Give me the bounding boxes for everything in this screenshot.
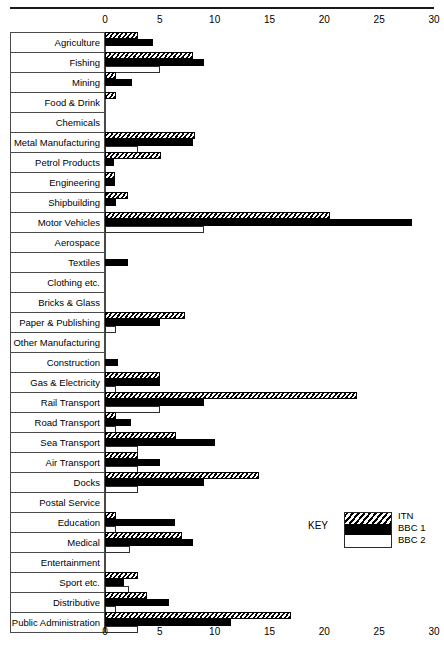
- category-label: Motor Vehicles: [11, 213, 104, 233]
- chart-row: [105, 192, 434, 212]
- bar-bbc1: [105, 579, 124, 586]
- bar-itn: [105, 152, 161, 159]
- chart-row: [105, 592, 434, 612]
- bar-itn: [105, 32, 138, 39]
- chart-row: [105, 232, 434, 252]
- x-tick-label: 30: [428, 14, 439, 25]
- bar-bbc1: [105, 139, 193, 146]
- category-label: Bricks & Glass: [11, 293, 104, 313]
- x-tick-label: 15: [264, 626, 275, 637]
- bar-itn: [105, 432, 176, 439]
- bar-itn: [105, 512, 116, 519]
- category-label: Construction: [11, 353, 104, 373]
- chart-row: [105, 352, 434, 372]
- chart-row: [105, 312, 434, 332]
- bar-bbc1: [105, 39, 153, 46]
- bar-itn: [105, 472, 259, 479]
- legend-key-label: KEY: [308, 520, 328, 531]
- chart-row: [105, 392, 434, 412]
- chart-row: [105, 152, 434, 172]
- category-label: Sport etc.: [11, 573, 104, 593]
- category-label-column: AgricultureFishingMiningFood & DrinkChem…: [10, 32, 105, 633]
- category-label: Entertainment: [11, 553, 104, 573]
- chart-row: [105, 552, 434, 572]
- legend: KEY ITN BBC 1 BBC 2: [308, 508, 440, 550]
- chart-row: [105, 212, 434, 232]
- category-label: Food & Drink: [11, 93, 104, 113]
- bar-itn: [105, 192, 128, 199]
- chart-row: [105, 112, 434, 132]
- bar-bbc1: [105, 219, 412, 226]
- bar-itn: [105, 412, 116, 419]
- chart-row: [105, 172, 434, 192]
- header-rule: [10, 7, 434, 9]
- bar-bbc1: [105, 59, 204, 66]
- legend-label-list: ITN BBC 1 BBC 2: [398, 510, 425, 546]
- chart-page: 051015202530 AgricultureFishingMiningFoo…: [0, 0, 444, 645]
- x-tick-label: 30: [428, 626, 439, 637]
- x-tick-label: 5: [157, 626, 163, 637]
- bar-bbc1: [105, 79, 132, 86]
- category-label: Distributive: [11, 593, 104, 613]
- x-tick-label: 25: [374, 14, 385, 25]
- bar-itn: [105, 372, 160, 379]
- bar-bbc1: [105, 359, 118, 366]
- bar-bbc1: [105, 199, 116, 206]
- chart-row: [105, 472, 434, 492]
- bar-bbc1: [105, 459, 160, 466]
- bar-bbc1: [105, 479, 204, 486]
- bar-bbc1: [105, 599, 169, 606]
- legend-item-bbc2: BBC 2: [398, 534, 425, 546]
- category-label: Rail Transport: [11, 393, 104, 413]
- clipped-figure-title: [110, 0, 330, 3]
- bar-bbc1: [105, 319, 160, 326]
- bar-bbc1: [105, 419, 131, 426]
- category-label: Metal Manufacturing: [11, 133, 104, 153]
- category-label: Shipbuilding: [11, 193, 104, 213]
- x-tick-label: 15: [264, 14, 275, 25]
- chart-row: [105, 32, 434, 52]
- bar-itn: [105, 572, 138, 579]
- bar-itn: [105, 132, 195, 139]
- x-tick-label: 20: [319, 626, 330, 637]
- hatched-swatch: [345, 513, 391, 524]
- bar-itn: [105, 92, 116, 99]
- category-label: Road Transport: [11, 413, 104, 433]
- category-label: Textiles: [11, 253, 104, 273]
- bar-bbc1: [105, 159, 114, 166]
- chart-row: [105, 92, 434, 112]
- category-label: Engineering: [11, 173, 104, 193]
- bar-itn: [105, 52, 193, 59]
- x-tick-label: 0: [102, 14, 108, 25]
- x-tick-label: 5: [157, 14, 163, 25]
- x-tick-label: 0: [102, 626, 108, 637]
- bar-bbc1: [105, 539, 193, 546]
- bar-bbc1: [105, 519, 175, 526]
- bar-itn: [105, 592, 147, 599]
- bar-itn: [105, 532, 182, 539]
- chart-row: [105, 52, 434, 72]
- category-label: Postal Service: [11, 493, 104, 513]
- bar-bbc1: [105, 439, 215, 446]
- chart-row: [105, 332, 434, 352]
- x-axis-top: 051015202530: [0, 14, 444, 28]
- bar-itn: [105, 312, 185, 319]
- bar-bbc1: [105, 619, 231, 626]
- category-label: Clothing etc.: [11, 273, 104, 293]
- category-label: Docks: [11, 473, 104, 493]
- bar-bbc1: [105, 259, 128, 266]
- legend-swatch-box: [344, 512, 392, 548]
- bar-itn: [105, 172, 115, 179]
- bar-itn: [105, 392, 357, 399]
- x-tick-label: 25: [374, 626, 385, 637]
- chart-row: [105, 412, 434, 432]
- category-label: Medical: [11, 533, 104, 553]
- category-label: Air Transport: [11, 453, 104, 473]
- bar-bbc1: [105, 399, 204, 406]
- legend-item-bbc1: BBC 1: [398, 522, 425, 534]
- bar-bbc1: [105, 379, 160, 386]
- legend-item-itn: ITN: [398, 510, 425, 522]
- category-label: Other Manufacturing: [11, 333, 104, 353]
- category-label: Chemicals: [11, 113, 104, 133]
- chart-row: [105, 452, 434, 472]
